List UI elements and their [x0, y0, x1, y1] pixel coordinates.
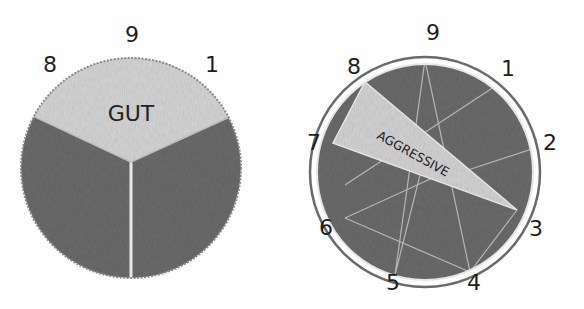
label-9: 9: [125, 22, 139, 47]
label-1: 1: [501, 56, 515, 81]
label-8: 8: [43, 52, 57, 77]
aggressive-diagram: AGGRESSIVE 9 1 2 3 4 5 6 7 8: [307, 20, 557, 295]
label-9: 9: [426, 20, 440, 45]
label-6: 6: [319, 215, 333, 240]
gut-wedge-label: GUT: [108, 101, 155, 126]
label-8: 8: [347, 54, 361, 79]
label-7: 7: [307, 130, 321, 155]
enneagram-diagrams: GUT 9 8 1 AGGRESSIVE: [0, 0, 584, 309]
gut-diagram: GUT 9 8 1: [20, 22, 245, 285]
label-2: 2: [543, 130, 557, 155]
label-3: 3: [529, 216, 543, 241]
label-5: 5: [386, 270, 400, 295]
label-4: 4: [467, 270, 481, 295]
label-1: 1: [205, 52, 219, 77]
